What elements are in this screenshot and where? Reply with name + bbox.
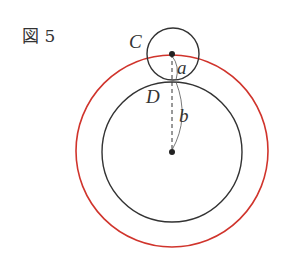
figure-label: 図 5: [22, 26, 55, 46]
label-d: D: [145, 86, 160, 107]
label-b: b: [179, 105, 189, 126]
label-c: C: [129, 31, 142, 52]
center-dot-c: [169, 51, 175, 57]
label-a: a: [177, 57, 187, 78]
center-dot-d: [169, 149, 175, 155]
figure-5-diagram: 図 5 C a D b: [0, 0, 292, 268]
